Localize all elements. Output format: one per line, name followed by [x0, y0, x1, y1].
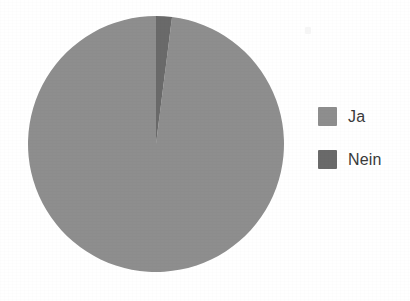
legend-swatch-ja — [318, 107, 337, 126]
legend-item-ja[interactable]: Ja — [318, 104, 410, 128]
plot-area — [0, 0, 300, 301]
chart-legend: Ja Nein — [318, 104, 410, 190]
scan-artifact-speck — [305, 27, 311, 34]
pie-chart: Ja Nein — [0, 0, 410, 301]
legend-swatch-nein — [318, 150, 337, 169]
legend-item-nein[interactable]: Nein — [318, 147, 410, 171]
legend-label-ja: Ja — [348, 107, 365, 126]
pie-svg — [0, 0, 300, 301]
legend-label-nein: Nein — [348, 150, 382, 169]
